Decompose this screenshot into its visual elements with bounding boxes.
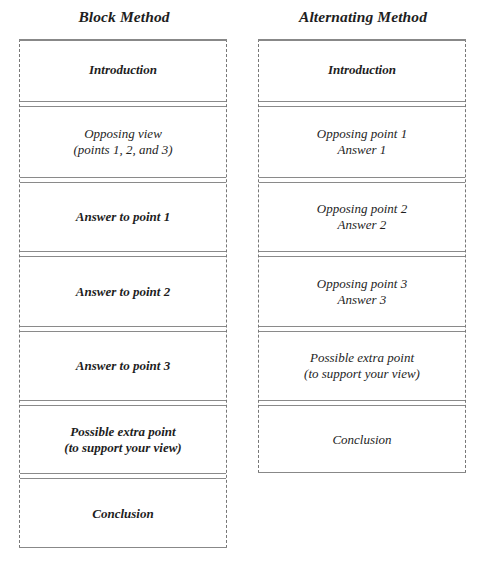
alternating-method-title: Alternating Method bbox=[258, 8, 468, 26]
block-method-title: Block Method bbox=[19, 8, 229, 26]
box-label: Opposing view (points 1, 2, and 3) bbox=[74, 126, 173, 158]
alt-box-point-1: Opposing point 1 Answer 1 bbox=[259, 107, 465, 177]
alt-box-point-3: Opposing point 3 Answer 3 bbox=[259, 257, 465, 326]
box-label: Answer to point 2 bbox=[76, 284, 170, 300]
block-box-conclusion: Conclusion bbox=[20, 479, 226, 548]
box-label: Opposing point 1 Answer 1 bbox=[317, 126, 407, 158]
box-label: Answer to point 1 bbox=[76, 209, 170, 225]
box-label: Introduction bbox=[89, 62, 157, 78]
alt-box-introduction: Introduction bbox=[259, 39, 465, 101]
block-method-column: Introduction Opposing view (points 1, 2,… bbox=[19, 39, 227, 548]
block-box-opposing-view: Opposing view (points 1, 2, and 3) bbox=[20, 107, 226, 177]
box-label: Possible extra point (to support your vi… bbox=[64, 424, 181, 456]
block-box-answer-1: Answer to point 1 bbox=[20, 183, 226, 251]
alt-box-point-2: Opposing point 2 Answer 2 bbox=[259, 183, 465, 251]
box-label: Answer to point 3 bbox=[76, 358, 170, 374]
block-box-answer-2: Answer to point 2 bbox=[20, 257, 226, 326]
box-label: Introduction bbox=[328, 62, 396, 78]
box-label: Possible extra point (to support your vi… bbox=[304, 350, 420, 382]
alt-box-extra-point: Possible extra point (to support your vi… bbox=[259, 332, 465, 400]
alternating-method-column: Introduction Opposing point 1 Answer 1 O… bbox=[258, 39, 466, 473]
block-box-introduction: Introduction bbox=[20, 39, 226, 101]
box-label: Conclusion bbox=[92, 506, 153, 522]
block-box-answer-3: Answer to point 3 bbox=[20, 332, 226, 400]
box-label: Opposing point 2 Answer 2 bbox=[317, 201, 407, 233]
box-label: Conclusion bbox=[332, 432, 391, 448]
alt-box-conclusion: Conclusion bbox=[259, 406, 465, 473]
block-box-extra-point: Possible extra point (to support your vi… bbox=[20, 406, 226, 473]
box-label: Opposing point 3 Answer 3 bbox=[317, 276, 407, 308]
